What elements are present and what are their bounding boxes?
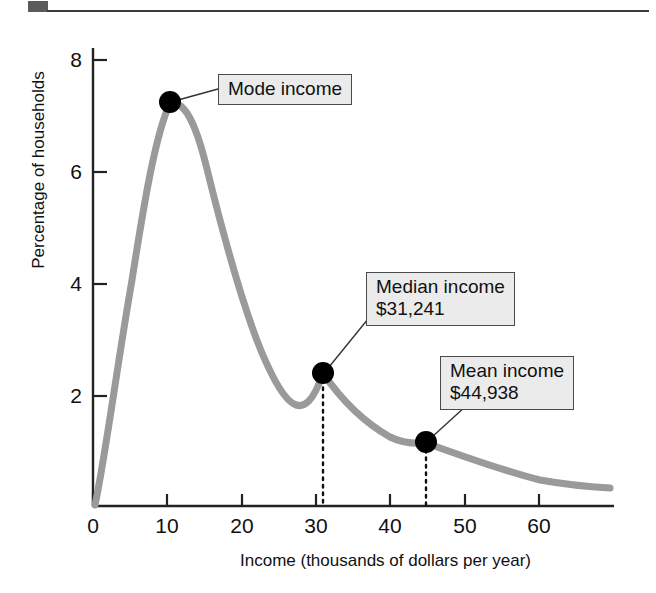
mode-marker-dot [159,91,181,113]
y-axis-title: Percentage of households [29,60,49,280]
x-tick-label-0: 0 [73,515,113,536]
callout-mean-value: $44,938 [450,382,564,404]
callout-median-label: Median income [376,276,505,297]
x-tick-label-50: 50 [445,515,485,536]
x-tick-label-30: 30 [296,515,336,536]
y-axis-ticks [93,60,107,396]
y-tick-label-4: 4 [52,273,82,294]
callout-mean-label: Mean income [450,360,564,381]
median-leader-line [329,319,368,367]
x-axis-title: Income (thousands of dollars per year) [240,551,531,571]
x-tick-label-40: 40 [370,515,410,536]
callout-median-value: $31,241 [376,298,505,320]
distribution-curve [95,103,610,505]
income-distribution-figure: 8 6 4 2 0 10 20 30 40 50 60 Percentage o… [0,0,656,593]
mean-leader-line [432,406,466,437]
mean-marker-dot [415,431,437,453]
y-tick-label-2: 2 [52,385,82,406]
callout-median-income: Median income $31,241 [366,272,515,326]
callout-mode-income: Mode income [218,74,352,105]
x-axis-ticks [93,492,539,506]
x-tick-label-10: 10 [147,515,187,536]
callout-mode-label: Mode income [228,78,342,99]
callout-mean-income: Mean income $44,938 [440,356,574,410]
x-tick-label-60: 60 [519,515,559,536]
y-tick-label-6: 6 [52,161,82,182]
y-tick-label-8: 8 [52,49,82,70]
mode-leader-line [178,89,218,100]
median-marker-dot [312,362,334,384]
x-tick-label-20: 20 [222,515,262,536]
